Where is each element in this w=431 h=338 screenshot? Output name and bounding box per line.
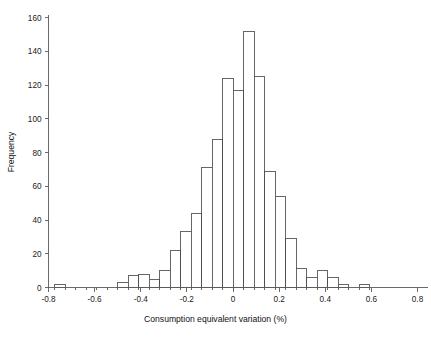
y-axis-tick-labels: 020406080100120140160: [28, 14, 42, 293]
x-axis: -0.8-0.6-0.4-0.200.20.40.60.8: [41, 288, 427, 304]
y-axis-ticks: [45, 18, 49, 288]
histogram-bar: [317, 271, 327, 288]
histogram-bar: [233, 90, 243, 287]
x-tick-label: 0: [231, 295, 236, 304]
y-axis-title: Frequency: [6, 131, 16, 172]
y-tick-label: 160: [28, 14, 42, 23]
histogram-bar: [307, 277, 317, 287]
histogram-bar: [338, 284, 348, 287]
histogram-bar: [149, 279, 159, 287]
histogram-bar: [328, 277, 338, 287]
x-tick-label: -0.2: [180, 295, 195, 304]
y-tick-label: 40: [32, 216, 42, 225]
histogram-bar: [118, 282, 128, 287]
y-axis: 020406080100120140160: [28, 14, 49, 293]
x-tick-label: -0.8: [41, 295, 56, 304]
x-axis-tick-labels: -0.8-0.6-0.4-0.200.20.40.60.8: [41, 295, 423, 304]
histogram-bar: [202, 168, 212, 288]
y-tick-label: 120: [28, 81, 42, 90]
y-tick-label: 80: [32, 149, 42, 158]
x-tick-label: 0.4: [320, 295, 332, 304]
histogram-bar: [128, 276, 138, 288]
histogram-bar: [212, 139, 222, 288]
x-tick-label: 0.2: [273, 295, 285, 304]
bars-group: [55, 31, 370, 288]
histogram-bar: [181, 232, 191, 288]
x-tick-label: 0.6: [366, 295, 378, 304]
histogram-bar: [296, 269, 306, 288]
histogram-bar: [170, 250, 180, 287]
histogram-bar: [55, 284, 65, 287]
histogram-figure: -0.8-0.6-0.4-0.200.20.40.60.8 0204060801…: [0, 0, 431, 338]
histogram-bar: [359, 284, 369, 287]
chart-canvas: -0.8-0.6-0.4-0.200.20.40.60.8 0204060801…: [0, 0, 431, 338]
histogram-bar: [286, 239, 296, 288]
x-tick-label: 0.8: [412, 295, 424, 304]
histogram-bar: [139, 274, 149, 288]
histogram-bar: [160, 271, 170, 288]
y-tick-label: 0: [37, 284, 42, 293]
x-tick-label: -0.6: [88, 295, 103, 304]
y-tick-label: 20: [32, 250, 42, 259]
y-tick-label: 140: [28, 47, 42, 56]
histogram-bar: [223, 78, 233, 287]
histogram-bar: [275, 196, 285, 287]
x-axis-title: Consumption equivalent variation (%): [144, 314, 287, 324]
y-tick-label: 100: [28, 115, 42, 124]
histogram-bar: [265, 171, 275, 287]
histogram-bar: [254, 77, 264, 288]
y-tick-label: 60: [32, 182, 42, 191]
histogram-bar: [244, 31, 254, 288]
histogram-bar: [191, 213, 201, 287]
x-tick-label: -0.4: [134, 295, 149, 304]
